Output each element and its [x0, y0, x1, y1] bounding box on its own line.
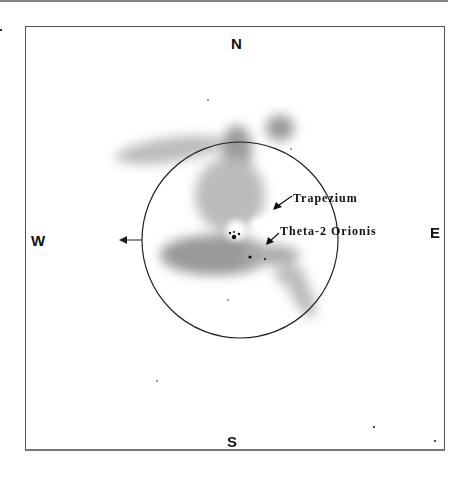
label-trapezium: Trapezium — [293, 191, 358, 206]
compass-east: E — [430, 224, 440, 241]
label-orionis: Orionis — [331, 224, 377, 239]
compass-north: N — [231, 35, 242, 52]
compass-west: W — [31, 232, 45, 249]
nebula-sketch — [0, 0, 459, 479]
label-theta2: Theta-2 — [280, 224, 327, 239]
compass-south: S — [227, 433, 237, 450]
arrow-west-icon — [119, 236, 127, 244]
